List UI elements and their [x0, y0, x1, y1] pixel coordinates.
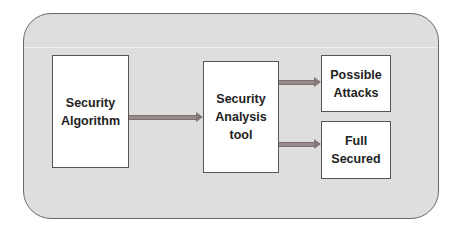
node-label-line: Algorithm	[61, 112, 120, 130]
node-label-line: Security	[61, 94, 120, 112]
arrow-right-icon	[129, 114, 203, 121]
node-full-secured: Full Secured	[321, 121, 391, 179]
node-label-line: Possible	[330, 66, 381, 84]
node-label-line: Analysis	[215, 108, 266, 126]
node-label-line: Security	[215, 90, 266, 108]
node-possible-attacks: Possible Attacks	[321, 55, 391, 112]
arrow-right-icon	[279, 141, 321, 148]
node-label-line: Full	[331, 132, 380, 150]
node-label-line: Secured	[331, 150, 380, 168]
node-label-line: tool	[215, 126, 266, 144]
arrow-right-icon	[279, 79, 321, 86]
node-label-line: Attacks	[330, 84, 381, 102]
divider-line	[24, 47, 438, 48]
node-security-analysis-tool: Security Analysis tool	[203, 61, 279, 173]
node-security-algorithm: Security Algorithm	[52, 55, 129, 168]
